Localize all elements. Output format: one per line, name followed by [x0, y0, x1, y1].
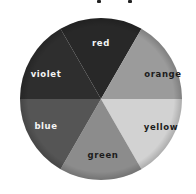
title-glyph-fragment [97, 0, 101, 3]
label-blue: blue [34, 121, 57, 131]
color-wheel: red orange yellow green blue violet [19, 17, 183, 181]
title-glyph-fragment [128, 0, 132, 3]
label-red: red [92, 38, 110, 48]
label-orange: orange [144, 69, 181, 79]
cropped-title-fragment [0, 0, 196, 6]
label-yellow: yellow [144, 122, 178, 132]
label-violet: violet [31, 69, 62, 79]
label-green: green [88, 150, 119, 160]
